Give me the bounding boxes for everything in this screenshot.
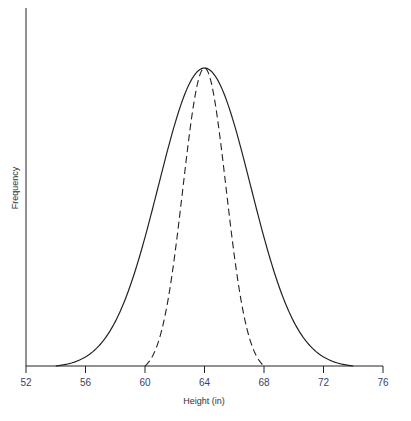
axes	[26, 8, 383, 366]
solid-curve	[56, 68, 354, 366]
x-ticks: 52566064687276	[20, 366, 389, 388]
x-axis-label: Height (in)	[183, 396, 225, 406]
chart: 52566064687276 Height (in) Frequency	[0, 0, 411, 421]
x-tick-label: 68	[258, 377, 270, 388]
x-tick-label: 64	[199, 377, 211, 388]
y-axis-label: Frequency	[10, 166, 20, 209]
x-tick-label: 56	[80, 377, 92, 388]
x-tick-label: 60	[139, 377, 151, 388]
dashed-curve	[145, 68, 264, 366]
x-tick-label: 76	[377, 377, 389, 388]
curves	[56, 68, 354, 366]
x-tick-label: 72	[318, 377, 330, 388]
x-tick-label: 52	[20, 377, 32, 388]
